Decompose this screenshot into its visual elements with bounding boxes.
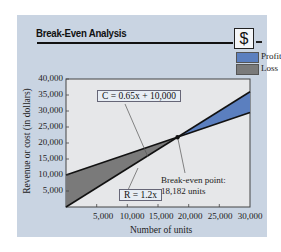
y-tick-30000: 30,000: [38, 105, 63, 115]
y-tick-20000: 20,000: [38, 137, 63, 147]
break-even-label-line2: 18,182 units: [161, 186, 226, 197]
y-tick-25000: 25,000: [38, 121, 63, 131]
y-axis-label: Revenue or cost (in dollars): [22, 86, 32, 196]
x-tick-5000: 5,000: [93, 211, 113, 221]
y-tick-35000: 35,000: [38, 89, 63, 99]
x-tick-30000: 30,000: [238, 211, 263, 221]
y-tick-10000: 10,000: [38, 169, 63, 179]
break-even-label: Break-even point: 18,182 units: [161, 175, 226, 197]
x-axis-label: Number of units: [130, 225, 192, 235]
y-tick-40000: 40,000: [38, 73, 63, 83]
x-tick-25000: 25,000: [208, 211, 233, 221]
cost-equation-label: C = 0.65x + 10,000: [97, 90, 181, 102]
y-tick-5000: 5,000: [43, 185, 63, 195]
break-even-label-line1: Break-even point:: [161, 175, 226, 186]
x-tick-15000: 15,000: [149, 211, 174, 221]
x-tick-20000: 20,000: [178, 211, 203, 221]
x-tick-10000: 10,000: [120, 211, 145, 221]
break-even-point: [175, 135, 179, 139]
revenue-equation-label: R = 1.2x: [119, 189, 162, 201]
y-tick-15000: 15,000: [38, 153, 63, 163]
